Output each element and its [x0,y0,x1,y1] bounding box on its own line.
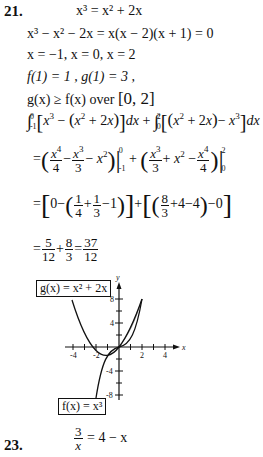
equation-line-5: g(x) ≥ f(x) over [0, 2] [27,89,155,109]
equation-line-3: x = −1, x = 0, x = 2 [27,47,136,63]
antiderivative-line: =(x44−x33− x2)|0-1 + (x33+ x2 −x44)|20 [33,146,226,174]
problem-number-21: 21. [4,3,23,20]
y-tick-label: -4 [106,367,113,376]
y-tick-label: -8 [106,391,113,400]
lhs-numerator: 3 [74,425,83,439]
x-tick-label: -4 [70,351,77,360]
equation-line-2: x³ − x² − 2x = x(x − 2)(x + 1) = 0 [27,26,213,42]
interval: [0, 2] [118,89,155,108]
y-tick-label: 4 [110,319,114,328]
problem-number-23: 23. [4,437,23,454]
final-answer: 3712 [83,236,98,263]
x-tick-label: 2 [140,351,144,360]
rhs: = 4 − x [87,430,127,445]
integral-setup: ∫0-1[x3 − (x2 + 2x)]dx + ∫20[(x2 + 2x)− … [27,110,260,132]
x-tick-label: -2 [93,351,100,360]
equation-line-1: x³ = x² + 2x [76,3,142,19]
equation-23: 3x = 4 − x [73,425,127,452]
x-tick-label: 4 [163,351,167,360]
inequality-text: g(x) ≥ f(x) over [27,92,118,107]
result-line: =512+83=3712 [33,236,99,263]
equation-line-4: f(1) = 1 , g(1) = 3 , [27,69,135,85]
f-function-label: f(x) = x³ [58,398,106,415]
evaluation-line: =[0−(14+13−1)]+[(83+4−4)−0] [33,191,232,219]
y-axis-label: y [115,273,120,282]
x-axis-label: x [181,343,186,352]
lhs-denominator: x [74,439,83,452]
g-function-label: g(x) = x² + 2x [36,280,111,297]
